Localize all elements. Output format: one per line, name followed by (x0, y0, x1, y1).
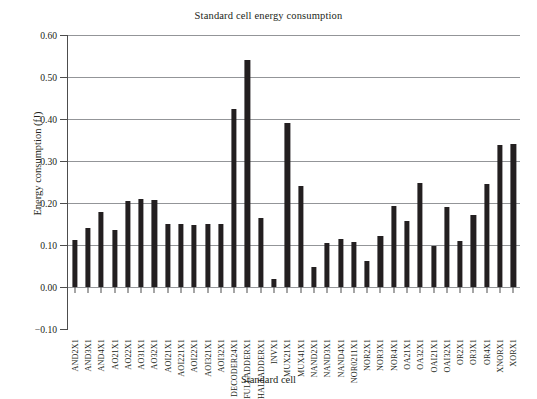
bar[interactable] (325, 243, 330, 287)
bar[interactable] (497, 145, 502, 287)
x-axis-tick (486, 287, 487, 293)
bar-slot[interactable]: FULLADDERX1 (241, 35, 254, 329)
bar-slot[interactable]: NAND4X1 (334, 35, 347, 329)
bar-slot[interactable]: OA32X1 (414, 35, 427, 329)
y-axis-tick-label: 0.00 (40, 282, 57, 293)
bar-slot[interactable]: AO31X1 (134, 35, 147, 329)
bar-slot[interactable]: OA21X1 (400, 35, 413, 329)
bar[interactable] (365, 261, 370, 287)
bar-slot[interactable]: AOI21X1 (161, 35, 174, 329)
x-axis-tick-label: XNORX1 (496, 339, 505, 373)
bar-slot[interactable]: NOR0211X1 (347, 35, 360, 329)
bar-slot[interactable]: AO21X1 (108, 35, 121, 329)
bar-slot[interactable]: NOR2X1 (360, 35, 373, 329)
y-axis-tick-label: 0.60 (40, 30, 57, 41)
bar[interactable] (338, 239, 343, 287)
bar-slot[interactable]: AOI221X1 (174, 35, 187, 329)
x-axis-tick-label: INVX1 (270, 339, 279, 364)
bar-slot[interactable]: OAI21X1 (427, 35, 440, 329)
x-axis-tick (433, 287, 434, 293)
bar-slot[interactable]: OR4X1 (480, 35, 493, 329)
x-axis-tick-label: NAND3X1 (323, 339, 332, 377)
bar[interactable] (351, 242, 356, 287)
bar-slot[interactable]: AND4X1 (95, 35, 108, 329)
bar[interactable] (112, 230, 117, 287)
x-axis-tick (274, 287, 275, 293)
x-axis-tick-label: OR3X1 (469, 339, 478, 365)
x-axis-tick (207, 287, 208, 293)
bar[interactable] (484, 184, 489, 287)
bar[interactable] (511, 144, 516, 287)
x-axis-tick-label: AO31X1 (137, 339, 146, 370)
bar[interactable] (139, 199, 144, 287)
x-axis-tick (340, 287, 341, 293)
x-axis-tick-label: OR4X1 (482, 339, 491, 365)
bar-slot[interactable]: OR2X1 (454, 35, 467, 329)
bar-slot[interactable]: NOR3X1 (374, 35, 387, 329)
x-axis-tick (473, 287, 474, 293)
bar-slot[interactable]: OR3X1 (467, 35, 480, 329)
y-axis-tick (60, 245, 68, 246)
bar-slot[interactable]: AOI321X1 (201, 35, 214, 329)
bar[interactable] (192, 225, 197, 287)
y-axis-tick-label: 0.20 (40, 198, 57, 209)
bar[interactable] (258, 218, 263, 287)
bar[interactable] (99, 212, 104, 287)
bar-slot[interactable]: MUX41X1 (294, 35, 307, 329)
bar[interactable] (165, 224, 170, 287)
bar[interactable] (218, 224, 223, 287)
bar-slot[interactable]: INVX1 (267, 35, 280, 329)
bar-slot[interactable]: AO32X1 (148, 35, 161, 329)
y-axis-tick (60, 287, 68, 288)
bar[interactable] (378, 236, 383, 287)
x-axis-tick-label: AOI21X1 (163, 339, 172, 372)
x-axis-tick-label: AO32X1 (150, 339, 159, 370)
bar[interactable] (471, 215, 476, 287)
x-axis-tick (180, 287, 181, 293)
x-axis-tick (420, 287, 421, 293)
bar-slot[interactable]: XNORX1 (493, 35, 506, 329)
bar-slot[interactable]: NAND3X1 (321, 35, 334, 329)
bar[interactable] (458, 241, 463, 287)
bar[interactable] (245, 60, 250, 287)
bar-slot[interactable]: DECODER24X1 (228, 35, 241, 329)
bar-slot[interactable]: NAND2X1 (307, 35, 320, 329)
x-axis-tick (114, 287, 115, 293)
bar[interactable] (178, 224, 183, 287)
y-axis-tick (60, 161, 68, 162)
y-axis-tick-label: −0.10 (35, 324, 57, 335)
x-axis-tick (74, 287, 75, 293)
bar[interactable] (72, 240, 77, 287)
bar[interactable] (444, 207, 449, 287)
bar[interactable] (205, 224, 210, 287)
bar[interactable] (311, 267, 316, 287)
bar[interactable] (431, 246, 436, 287)
x-axis-tick (194, 287, 195, 293)
y-axis-tick-label: 0.30 (40, 156, 57, 167)
bar-slot[interactable]: AND3X1 (81, 35, 94, 329)
bar[interactable] (125, 201, 130, 287)
x-axis-title: Standard cell (0, 374, 537, 385)
bar-slot[interactable]: AOI32X1 (214, 35, 227, 329)
bar-slot[interactable]: AO22X1 (121, 35, 134, 329)
bar[interactable] (232, 109, 237, 288)
bar-slot[interactable]: HALFADDERX1 (254, 35, 267, 329)
bar[interactable] (298, 186, 303, 287)
bar-slot[interactable]: NOR4X1 (387, 35, 400, 329)
bar-slot[interactable]: MUX21X1 (281, 35, 294, 329)
bar-slot[interactable]: OAI32X1 (440, 35, 453, 329)
y-axis-tick-label: 0.50 (40, 72, 57, 83)
x-axis-tick (460, 287, 461, 293)
bar[interactable] (85, 228, 90, 287)
x-axis-tick-label: NOR2X1 (363, 339, 372, 371)
bar-slot[interactable]: AOI22X1 (188, 35, 201, 329)
bar[interactable] (418, 183, 423, 287)
bar-slot[interactable]: XORX1 (507, 35, 520, 329)
bar[interactable] (152, 200, 157, 287)
bar[interactable] (271, 279, 276, 287)
bar-slot[interactable]: AND2X1 (68, 35, 81, 329)
bar[interactable] (391, 206, 396, 287)
bar[interactable] (404, 221, 409, 287)
bar[interactable] (285, 123, 290, 287)
x-axis-tick (446, 287, 447, 293)
